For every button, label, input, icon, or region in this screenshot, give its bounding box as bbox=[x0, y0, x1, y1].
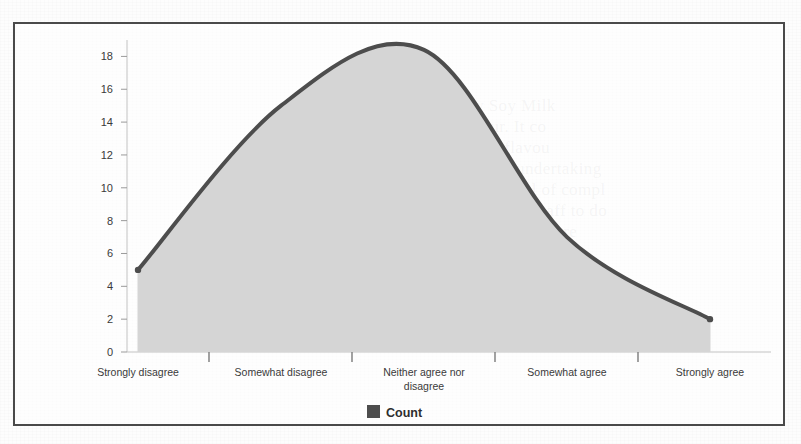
y-tick-label: 6 bbox=[107, 247, 113, 259]
y-tick-label: 10 bbox=[101, 182, 113, 194]
chart-frame: 0 2 4 6 8 10 12 14 16 18 S bbox=[13, 22, 785, 426]
y-tick-label: 8 bbox=[107, 215, 113, 227]
legend-swatch-count bbox=[367, 405, 380, 418]
y-tick-label: 16 bbox=[101, 83, 113, 95]
x-tick-label-strongly-agree: Strongly agree bbox=[676, 366, 744, 378]
series-area-fill bbox=[138, 44, 710, 352]
y-tick-label: 0 bbox=[107, 346, 113, 358]
y-axis-ticks bbox=[121, 56, 127, 352]
x-axis-category-labels: Strongly disagree Somewhat disagree Neit… bbox=[97, 366, 744, 392]
y-axis-tick-labels: 0 2 4 6 8 10 12 14 16 18 bbox=[101, 50, 113, 358]
x-axis-ticks bbox=[209, 352, 638, 362]
x-tick-label-somewhat-agree: Somewhat agree bbox=[527, 366, 607, 378]
data-point-end[interactable] bbox=[707, 316, 713, 322]
legend-label-count: Count bbox=[386, 406, 423, 420]
data-point-start[interactable] bbox=[135, 267, 141, 273]
y-tick-label: 2 bbox=[107, 313, 113, 325]
chart-legend[interactable]: Count bbox=[367, 405, 423, 420]
area-chart[interactable]: 0 2 4 6 8 10 12 14 16 18 S bbox=[15, 24, 783, 424]
y-tick-label: 4 bbox=[107, 280, 113, 292]
y-tick-label: 18 bbox=[101, 50, 113, 62]
x-tick-label-somewhat-disagree: Somewhat disagree bbox=[235, 366, 328, 378]
x-tick-label-strongly-disagree: Strongly disagree bbox=[97, 366, 179, 378]
y-tick-label: 12 bbox=[101, 149, 113, 161]
x-tick-label-neither-line2: disagree bbox=[404, 380, 444, 392]
x-tick-label-neither-line1: Neither agree nor bbox=[383, 366, 465, 378]
y-tick-label: 14 bbox=[101, 116, 113, 128]
